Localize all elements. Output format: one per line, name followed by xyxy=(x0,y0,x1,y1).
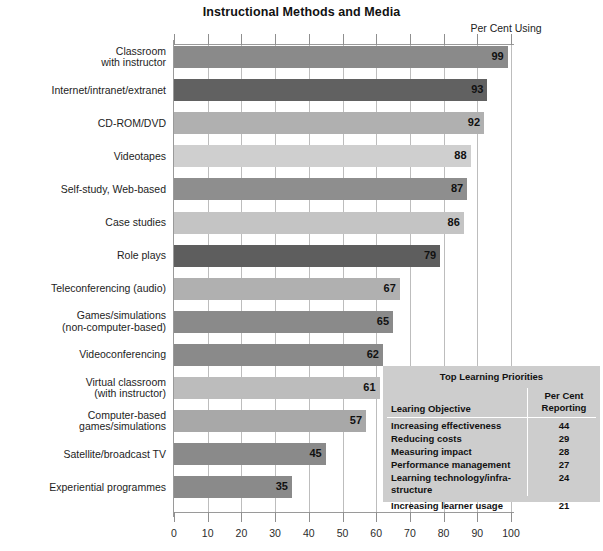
bar-value-label: 79 xyxy=(406,249,436,261)
category-label-line1: Internet/intranet/extranet xyxy=(0,85,166,97)
category-label: Virtual classroom(with instructor) xyxy=(0,377,166,400)
x-tick-40 xyxy=(309,512,310,522)
table-cell-value: 24 xyxy=(533,472,595,483)
bar-value-label: 87 xyxy=(433,182,463,194)
category-label-line1: Videotapes xyxy=(0,151,166,163)
table-header-objective: Learing Objective xyxy=(391,403,471,414)
bar-value-label: 88 xyxy=(437,149,467,161)
x-tick-100 xyxy=(511,512,512,522)
category-label-line1: Satellite/broadcast TV xyxy=(0,449,166,461)
bar-row: 87 xyxy=(174,178,511,200)
x-tick-0 xyxy=(174,512,175,522)
chart-page: Instructional Methods and Media Per Cent… xyxy=(0,0,603,551)
table-header-row: Learing Objective Per Cent Reporting xyxy=(383,388,600,415)
category-label-line1: Role plays xyxy=(0,250,166,262)
category-label: Role plays xyxy=(0,250,166,262)
bar-value-label: 61 xyxy=(346,381,376,393)
x-tick-80 xyxy=(444,512,445,522)
table-row: Measuring impact28 xyxy=(383,446,600,459)
bar-value-label: 57 xyxy=(332,414,362,426)
category-label: Case studies xyxy=(0,217,166,229)
bar-value-label: 62 xyxy=(349,348,379,360)
category-label: Computer-basedgames/simulations xyxy=(0,410,166,433)
bar[interactable] xyxy=(174,178,467,200)
x-tick-top-40 xyxy=(309,34,310,45)
category-label-line2: games/simulations xyxy=(0,421,166,433)
bar-row: 92 xyxy=(174,112,511,134)
x-tick-top-10 xyxy=(208,34,209,45)
x-tick-top-50 xyxy=(343,34,344,45)
table-cell-objective: Measuring impact xyxy=(391,446,523,458)
bar-row: 93 xyxy=(174,79,511,101)
x-tick-top-80 xyxy=(444,34,445,45)
category-label-line1: Experiential programmes xyxy=(0,482,166,494)
category-label: Videotapes xyxy=(0,151,166,163)
x-tick-top-90 xyxy=(477,34,478,45)
category-label-line1: CD-ROM/DVD xyxy=(0,118,166,130)
table-title: Top Learning Priorities xyxy=(383,371,600,382)
bar-value-label: 67 xyxy=(366,282,396,294)
category-label: Experiential programmes xyxy=(0,482,166,494)
category-label: Satellite/broadcast TV xyxy=(0,449,166,461)
category-label: Internet/intranet/extranet xyxy=(0,85,166,97)
bar-row: 67 xyxy=(174,278,511,300)
x-tick-top-70 xyxy=(410,34,411,45)
category-label-line1: Teleconferencing (audio) xyxy=(0,283,166,295)
bar-value-label: 99 xyxy=(474,50,504,62)
category-label: Classroomwith instructor xyxy=(0,46,166,69)
bar[interactable] xyxy=(174,145,471,167)
table-cell-objective: Reducing costs xyxy=(391,433,523,445)
bar-row: 62 xyxy=(174,344,511,366)
table-cell-objective: Increasing effectiveness xyxy=(391,420,523,432)
x-tick-top-20 xyxy=(241,34,242,45)
bar[interactable] xyxy=(174,112,484,134)
bar-row: 65 xyxy=(174,311,511,333)
table-row: Learning technology/infra-structure24 xyxy=(383,472,600,495)
bar-value-label: 45 xyxy=(292,447,322,459)
table-cell-value: 21 xyxy=(533,500,595,511)
table-header-divider xyxy=(387,417,596,418)
table-body: Increasing effectiveness44Reducing costs… xyxy=(383,420,600,513)
category-label: Videoconferencing xyxy=(0,349,166,361)
table-cell-objective: Increasing learner usage xyxy=(391,500,523,512)
table-header-value-line2: Reporting xyxy=(533,402,595,414)
bar-row: 99 xyxy=(174,46,511,68)
page-title: Instructional Methods and Media xyxy=(0,5,603,19)
x-tick-top-0 xyxy=(174,34,175,45)
x-tick-90 xyxy=(477,512,478,522)
category-label-line2: (with instructor) xyxy=(0,388,166,400)
table-row: Increasing effectiveness44 xyxy=(383,420,600,433)
bar[interactable] xyxy=(174,79,487,101)
bar[interactable] xyxy=(174,245,440,267)
x-tick-70 xyxy=(410,512,411,522)
category-label: Teleconferencing (audio) xyxy=(0,283,166,295)
x-axis-unit-label: Per Cent Using xyxy=(436,22,576,34)
bar-value-label: 92 xyxy=(450,116,480,128)
table-row: Performance management27 xyxy=(383,459,600,472)
category-label: Games/simulations(non-computer-based) xyxy=(0,310,166,333)
table-cell-value: 29 xyxy=(533,433,595,444)
bar-value-label: 86 xyxy=(430,216,460,228)
bar-row: 86 xyxy=(174,212,511,234)
bar-value-label: 35 xyxy=(258,480,288,492)
table-cell-value: 44 xyxy=(533,420,595,431)
category-label: Self-study, Web-based xyxy=(0,184,166,196)
bar-value-label: 65 xyxy=(359,315,389,327)
bar[interactable] xyxy=(174,212,464,234)
top-learning-priorities-table: Top Learning Priorities Learing Objectiv… xyxy=(383,366,600,502)
x-tick-top-60 xyxy=(376,34,377,45)
table-cell-objective: Performance management xyxy=(391,459,523,471)
category-label-line1: Self-study, Web-based xyxy=(0,184,166,196)
category-label-line1: Videoconferencing xyxy=(0,349,166,361)
bar-row: 88 xyxy=(174,145,511,167)
table-row: Increasing learner usage21 xyxy=(383,500,600,513)
bar[interactable] xyxy=(174,46,508,68)
table-header-value: Per Cent Reporting xyxy=(533,390,595,413)
category-label-line2: (non-computer-based) xyxy=(0,322,166,334)
x-tick-60 xyxy=(376,512,377,522)
x-tick-20 xyxy=(241,512,242,522)
x-tick-label-100: 100 xyxy=(491,527,531,539)
x-tick-top-100 xyxy=(511,34,512,45)
table-row: Reducing costs29 xyxy=(383,433,600,446)
category-label-line2: with instructor xyxy=(0,57,166,69)
